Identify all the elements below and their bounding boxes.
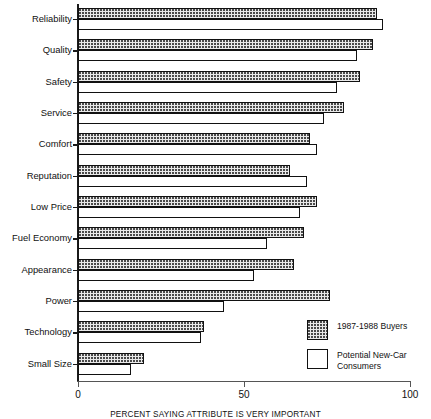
bar-potential	[78, 364, 131, 375]
y-axis-tick	[73, 270, 78, 271]
bar-group	[78, 67, 410, 98]
bar-buyers	[78, 290, 330, 301]
y-axis-tick	[73, 332, 78, 333]
category-label: Reliability	[0, 14, 72, 24]
bar-buyers	[78, 39, 373, 50]
bar-potential	[78, 301, 224, 312]
bar-group	[78, 4, 410, 35]
bar-buyers	[78, 321, 204, 332]
white-swatch-icon	[307, 349, 328, 369]
y-axis-tick	[73, 238, 78, 239]
x-axis-tick-label: 50	[224, 389, 264, 400]
category-label: Low Price	[0, 202, 72, 212]
chart-legend: 1987-1988 Buyers Potential New-Car Consu…	[307, 320, 427, 378]
bar-buyers	[78, 353, 144, 364]
bar-chart: ReliabilityQualitySafetyServiceComfortRe…	[0, 0, 431, 419]
bar-potential	[78, 238, 267, 249]
category-label: Power	[0, 296, 72, 306]
bar-potential	[78, 82, 337, 93]
x-axis-tick	[410, 381, 411, 387]
category-label: Technology	[0, 327, 72, 337]
bar-group	[78, 35, 410, 66]
bar-buyers	[78, 71, 360, 82]
bar-potential	[78, 176, 307, 187]
y-axis-tick	[73, 82, 78, 83]
dotted-swatch-icon	[307, 320, 328, 340]
category-label: Reputation	[0, 171, 72, 181]
legend-label-potential: Potential New-Car Consumers	[337, 350, 429, 371]
bar-group	[78, 192, 410, 223]
bar-buyers	[78, 8, 377, 19]
category-label: Quality	[0, 45, 72, 55]
x-axis-tick-label: 100	[390, 389, 430, 400]
legend-label-buyers: 1987-1988 Buyers	[337, 321, 429, 332]
bar-buyers	[78, 165, 290, 176]
bar-group	[78, 161, 410, 192]
x-axis-tick	[78, 381, 79, 387]
legend-item-buyers: 1987-1988 Buyers	[307, 320, 427, 342]
bar-buyers	[78, 227, 304, 238]
y-axis-tick	[73, 113, 78, 114]
y-axis-tick	[73, 301, 78, 302]
bar-potential	[78, 50, 357, 61]
bar-potential	[78, 113, 324, 124]
category-label: Small Size	[0, 359, 72, 369]
bar-group	[78, 286, 410, 317]
y-axis-tick	[73, 364, 78, 365]
category-label: Fuel Economy	[0, 233, 72, 243]
bar-group	[78, 223, 410, 254]
legend-item-potential: Potential New-Car Consumers	[307, 349, 427, 371]
bar-potential	[78, 19, 383, 30]
y-axis-tick	[73, 207, 78, 208]
category-label: Appearance	[0, 265, 72, 275]
y-axis-tick	[73, 19, 78, 20]
bar-group	[78, 255, 410, 286]
y-axis-tick	[73, 50, 78, 51]
bar-buyers	[78, 133, 310, 144]
bar-buyers	[78, 259, 294, 270]
x-axis-tick-label: 0	[58, 389, 98, 400]
y-axis-tick	[73, 176, 78, 177]
category-label: Service	[0, 108, 72, 118]
x-axis-tick	[244, 381, 245, 387]
y-axis-tick	[73, 144, 78, 145]
bar-potential	[78, 332, 201, 343]
bar-buyers	[78, 196, 317, 207]
category-label: Safety	[0, 77, 72, 87]
bar-group	[78, 129, 410, 160]
category-label: Comfort	[0, 139, 72, 149]
bar-buyers	[78, 102, 344, 113]
x-axis-title: PERCENT SAYING ATTRIBUTE IS VERY IMPORTA…	[0, 410, 431, 419]
bar-potential	[78, 144, 317, 155]
bar-potential	[78, 207, 300, 218]
bar-group	[78, 98, 410, 129]
bar-potential	[78, 270, 254, 281]
